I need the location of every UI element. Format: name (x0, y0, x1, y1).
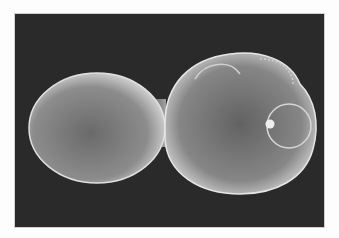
mother-cell (165, 53, 316, 194)
yeast-cell-illustration (15, 14, 324, 227)
micrograph (15, 14, 324, 227)
birth-scar-dot (266, 120, 275, 129)
daughter-cell (29, 73, 165, 183)
